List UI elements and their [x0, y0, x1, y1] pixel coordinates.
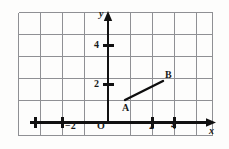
point-b-label: B — [165, 70, 172, 80]
x-tick-label-4: 4 — [171, 121, 176, 131]
grid-vertical-lines — [19, 13, 213, 136]
point-a-label: A — [122, 103, 129, 113]
x-axis-name-label: x — [209, 126, 214, 136]
coordinate-plane — [0, 0, 229, 149]
grid-horizontal-lines — [19, 13, 213, 136]
x-axis — [30, 118, 216, 126]
y-axis — [104, 11, 112, 123]
y-axis-name-label: y — [99, 9, 103, 19]
x-tick-label-2: 2 — [149, 121, 154, 131]
x-tick-label-minus-2: −2 — [65, 121, 76, 131]
graph-figure: −2 O 2 4 2 4 y x A B — [0, 0, 229, 149]
y-tick-label-4: 4 — [94, 40, 99, 50]
origin-label: O — [97, 121, 105, 131]
y-tick-label-2: 2 — [94, 79, 99, 89]
